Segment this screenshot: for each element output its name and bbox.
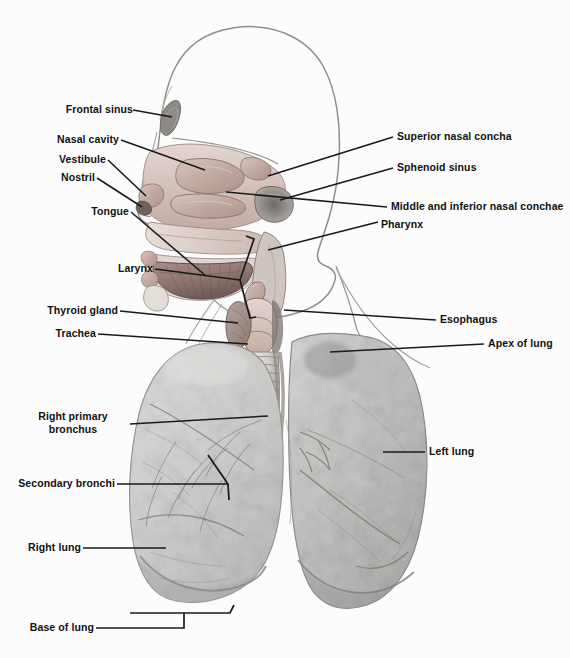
- label-esophagus: Esophagus: [440, 313, 498, 326]
- label-middle-inferior-conchae: Middle and inferior nasal conchae: [391, 200, 564, 213]
- label-base-of-lung: Base of lung: [0, 621, 98, 634]
- label-secondary-bronchi: Secondary bronchi: [0, 477, 119, 490]
- label-thyroid-gland: Thyroid gland: [0, 304, 122, 317]
- label-larynx: Larynx: [0, 262, 157, 275]
- label-trachea: Trachea: [0, 327, 100, 340]
- label-tongue: Tongue: [0, 205, 133, 218]
- label-pharynx: Pharynx: [381, 218, 423, 231]
- respiratory-system-figure: Frontal sinus Nasal cavity Vestibule Nos…: [0, 0, 570, 658]
- mandible-structure: [144, 285, 169, 311]
- label-apex-of-lung: Apex of lung: [488, 337, 553, 350]
- label-right-lung: Right lung: [0, 541, 85, 554]
- label-frontal-sinus: Frontal sinus: [0, 103, 137, 116]
- label-nasal-cavity: Nasal cavity: [0, 133, 123, 146]
- label-superior-nasal-concha: Superior nasal concha: [397, 130, 512, 143]
- label-right-primary-bronchus: Right primary bronchus: [18, 410, 128, 435]
- sphenoid-sinus-structure: [255, 186, 293, 222]
- label-nostril: Nostril: [0, 171, 99, 184]
- label-right-primary-bronchus-line2: bronchus: [49, 423, 98, 435]
- label-sphenoid-sinus: Sphenoid sinus: [397, 161, 477, 174]
- label-right-primary-bronchus-line1: Right primary: [38, 410, 108, 422]
- label-vestibule: Vestibule: [0, 153, 110, 166]
- label-left-lung: Left lung: [429, 445, 474, 458]
